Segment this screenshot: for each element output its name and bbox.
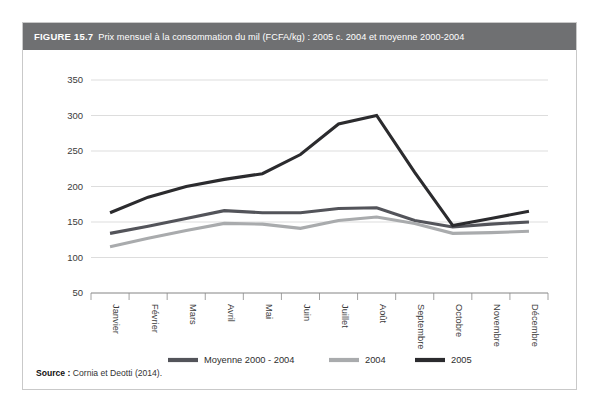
x-tick-label: Février xyxy=(150,304,160,333)
x-tick-label: Novembre xyxy=(492,304,502,347)
x-tick-label: Avril xyxy=(226,304,236,322)
x-axis-group xyxy=(91,293,548,300)
y-tick-label: 300 xyxy=(67,110,83,121)
figure-title: Prix mensuel à la consommation du mil (F… xyxy=(98,32,464,42)
y-tick-label: 200 xyxy=(67,181,83,192)
y-tick-label: 100 xyxy=(67,252,83,263)
legend-label: 2005 xyxy=(451,355,472,365)
gridlines-group xyxy=(91,80,548,293)
x-tick-label: Septembre xyxy=(416,304,426,349)
source-note: Source : Cornia et Deotti (2014). xyxy=(36,368,162,378)
x-tick-label: Juillet xyxy=(340,304,350,328)
x-tick-label: Août xyxy=(378,304,388,324)
figure-card: FIGURE 15.7 Prix mensuel à la consommati… xyxy=(22,22,577,390)
legend-label: Moyenne 2000 - 2004 xyxy=(204,355,294,365)
x-tick-label: Juin xyxy=(302,304,312,321)
x-tick-label: Décembre xyxy=(530,304,540,347)
y-tick-label: 350 xyxy=(67,74,83,85)
x-tick-label: Janvier xyxy=(111,304,121,334)
legend-label: 2004 xyxy=(365,355,386,365)
figure-number: FIGURE 15.7 xyxy=(34,31,93,42)
y-tick-label: 150 xyxy=(67,216,83,227)
x-tick-label: Octobre xyxy=(454,304,464,337)
source-text: Cornia et Deotti (2014). xyxy=(73,368,162,378)
source-label: Source : xyxy=(36,368,70,378)
chart-plot-area: 50100150200250300350 JanvierFévrierMarsA… xyxy=(23,50,576,391)
y-tick-label: 50 xyxy=(72,287,83,298)
y-tick-label: 250 xyxy=(67,145,83,156)
x-tick-label: Mars xyxy=(188,304,198,325)
line-chart: 50100150200250300350 JanvierFévrierMarsA… xyxy=(23,50,576,391)
series-line-moyenne-2000-2004 xyxy=(110,208,529,234)
chart-legend: Moyenne 2000 - 200420042005 xyxy=(168,355,472,365)
series-line-2005 xyxy=(110,116,529,226)
figure-header-bar: FIGURE 15.7 Prix mensuel à la consommati… xyxy=(23,23,576,50)
y-axis-tick-labels: 50100150200250300350 xyxy=(67,74,83,298)
data-series-group xyxy=(110,116,529,247)
x-axis-tick-labels: JanvierFévrierMarsAvrilMaiJuinJuilletAoû… xyxy=(111,304,540,349)
x-tick-label: Mai xyxy=(264,304,274,319)
